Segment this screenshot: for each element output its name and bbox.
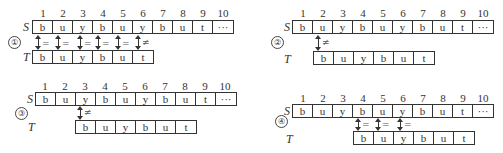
t-cell: u [434, 132, 454, 144]
t-cell: y [394, 132, 414, 144]
t-cell: b [354, 132, 374, 144]
s-cell: b [353, 105, 373, 117]
t-cell: t [454, 132, 474, 144]
t-cell: b [414, 132, 434, 144]
s-cell: u [373, 105, 393, 117]
t-cell: u [374, 132, 394, 144]
t-string: b u y b u t [353, 131, 475, 145]
index-2: 2 [313, 93, 333, 104]
index-7: 7 [413, 93, 433, 104]
s-cell: y [393, 105, 413, 117]
equal-sign: = [362, 120, 370, 129]
s-cell: t [453, 105, 473, 117]
index-6: 6 [393, 93, 413, 104]
double-arrow-icon [397, 118, 403, 131]
s-cell: u [433, 105, 453, 117]
index-3: 3 [333, 93, 353, 104]
s-cell: y [333, 105, 353, 117]
s-cell: b [293, 105, 313, 117]
double-arrow-icon [355, 118, 361, 131]
s-cell: ··· [473, 105, 493, 117]
s-cell: b [413, 105, 433, 117]
index-1: 1 [293, 93, 313, 104]
panel-4: 1 2 3 4 5 6 7 8 9 10 S b u y b u y b u t… [0, 0, 503, 153]
s-cell: u [313, 105, 333, 117]
s-string: b u y b u y b u t ··· [292, 104, 494, 118]
equal-sign: = [404, 120, 412, 129]
index-9: 9 [453, 93, 473, 104]
index-5: 5 [373, 93, 393, 104]
double-arrow-icon [375, 118, 381, 131]
index-4: 4 [353, 93, 373, 104]
index-10: 10 [473, 93, 493, 104]
step-marker: ④ [275, 115, 288, 128]
t-label: T [286, 133, 293, 145]
equal-sign: = [382, 120, 390, 129]
index-8: 8 [433, 93, 453, 104]
